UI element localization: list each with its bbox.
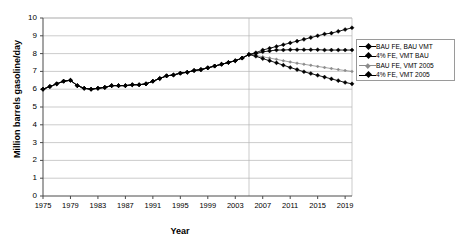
gasoline-projection-chart: Million barrels gasoline/day Year 012345…: [0, 0, 457, 249]
x-tick-label: 2003: [220, 202, 250, 210]
legend-marker-icon: [359, 52, 376, 61]
x-tick-label: 1987: [110, 202, 140, 210]
chart-legend: BAU FE, BAU VMT 4% FE, VMT BAU BAU FE, V…: [356, 39, 455, 81]
legend-item-3[interactable]: 4% FE, VMT 2005: [359, 71, 454, 81]
legend-item-1[interactable]: 4% FE, VMT BAU: [359, 52, 454, 62]
y-tick-label: 5: [15, 103, 37, 111]
legend-marker-icon: [359, 42, 376, 51]
y-tick-label: 3: [15, 139, 37, 147]
x-tick-label: 2015: [303, 202, 333, 210]
y-tick-label: 6: [15, 85, 37, 93]
y-tick-label: 4: [15, 121, 37, 129]
legend-item-0[interactable]: BAU FE, BAU VMT: [359, 42, 454, 52]
x-tick-label: 1999: [193, 202, 223, 210]
x-tick-label: 1991: [138, 202, 168, 210]
x-tick-label: 1983: [83, 202, 113, 210]
x-tick-label: 1995: [165, 202, 195, 210]
x-tick-label: 1975: [28, 202, 58, 210]
legend-marker-icon: [359, 71, 376, 80]
x-tick-label: 2007: [248, 202, 278, 210]
legend-item-2[interactable]: BAU FE, VMT 2005: [359, 61, 454, 71]
y-tick-label: 10: [15, 14, 37, 22]
y-tick-label: 8: [15, 50, 37, 58]
y-tick-label: 7: [15, 67, 37, 75]
legend-label: BAU FE, BAU VMT: [376, 43, 433, 51]
x-tick-label: 2019: [330, 202, 360, 210]
legend-marker-icon: [359, 61, 376, 70]
legend-label: 4% FE, VMT BAU: [376, 52, 429, 60]
chart-plot-area: [0, 0, 457, 249]
y-tick-label: 2: [15, 156, 37, 164]
x-axis-title: Year: [0, 226, 360, 236]
x-tick-label: 2011: [275, 202, 305, 210]
y-tick-label: 0: [15, 192, 37, 200]
x-tick-label: 1979: [55, 202, 85, 210]
legend-label: BAU FE, VMT 2005: [376, 62, 434, 70]
y-tick-label: 1: [15, 174, 37, 182]
y-tick-label: 9: [15, 32, 37, 40]
legend-label: 4% FE, VMT 2005: [376, 71, 430, 79]
